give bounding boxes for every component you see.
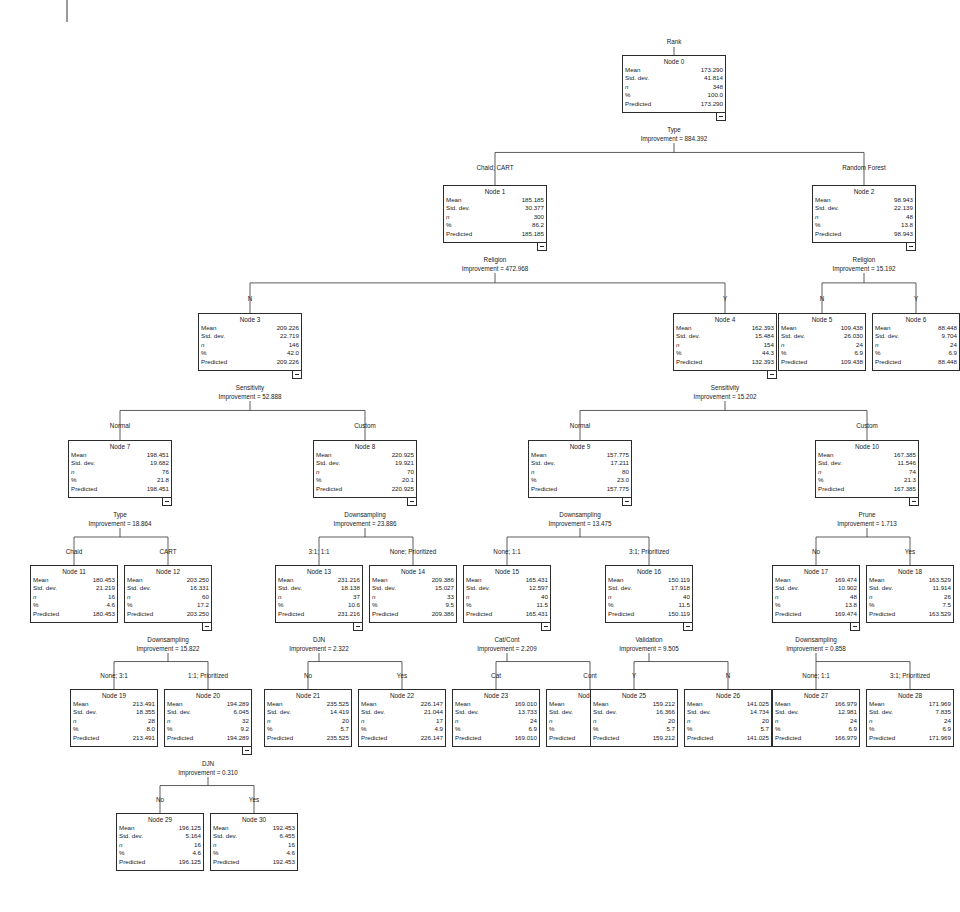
node-stat-value: 5.164 (186, 832, 201, 840)
node-stat-value: 20 (668, 717, 675, 725)
collapse-minus-icon[interactable] (541, 622, 551, 631)
node-stat-row: %6.9 (875, 349, 957, 357)
collapse-minus-icon[interactable] (202, 622, 212, 631)
tree-node[interactable]: Node 30Mean192.453Std. dev.6.455n16%4.6P… (210, 813, 298, 871)
node-stat-row: Std. dev.41.814 (625, 74, 723, 82)
collapse-minus-icon[interactable] (683, 622, 693, 631)
node-stat-value: 24 (944, 717, 951, 725)
node-stat-row: Std. dev.14.734 (687, 708, 769, 716)
collapse-minus-icon[interactable] (622, 497, 632, 506)
node-stat-value: 21.044 (424, 708, 443, 716)
node-stat-value: 231.216 (338, 610, 360, 618)
node-stat-label: % (625, 91, 631, 99)
tree-node[interactable]: Node 28Mean171.969Std. dev.7.835n24%6.9P… (866, 689, 954, 747)
node-stat-row: n48 (775, 593, 857, 601)
tree-node[interactable]: Node 0Mean173.290Std. dev.41.814n348%100… (622, 55, 726, 113)
tree-node[interactable]: Node 6Mean88.448Std. dev.9.704n24%6.9Pre… (872, 313, 960, 371)
tree-node[interactable]: Node 3Mean209.226Std. dev.22.719n146%42.… (198, 313, 302, 371)
node-stat-label: Std. dev. (549, 708, 573, 716)
node-stat-row: Predicted163.529 (869, 610, 951, 618)
edge-label: 3:1; 1:1 (308, 548, 329, 556)
node-stat-value: 6.9 (528, 725, 537, 733)
collapse-minus-icon[interactable] (850, 622, 860, 631)
tree-node[interactable]: Node 23Mean169.010Std. dev.13.733n24%6.9… (452, 689, 540, 747)
node-stat-label: n (316, 468, 319, 476)
tree-node[interactable]: Node 12Mean203.250Std. dev.16.331n60%17.… (124, 565, 212, 623)
tree-node[interactable]: Node 11Mean180.453Std. dev.21.219n16%4.6… (30, 565, 118, 623)
node-stat-label: Std. dev. (775, 584, 799, 592)
tree-node[interactable]: Node 21Mean235.525Std. dev.14.419n20%5.7… (264, 689, 352, 747)
tree-node[interactable]: Node 8Mean220.925Std. dev.19.921n70%20.1… (313, 440, 417, 498)
node-stat-row: Mean196.125 (119, 824, 201, 832)
tree-node[interactable]: Node 13Mean231.216Std. dev.18.138n37%10.… (275, 565, 363, 623)
tree-node[interactable]: Node 4Mean162.393Std. dev.15.484n154%44.… (673, 313, 777, 371)
edge-label: Y (723, 295, 727, 303)
node-stat-row: Predicted209.386 (372, 610, 454, 618)
node-stat-row: Std. dev.6.045 (167, 708, 249, 716)
node-stat-value: 209.226 (277, 358, 299, 366)
collapse-minus-icon[interactable] (767, 370, 777, 379)
node-stat-value: 11.5 (536, 601, 548, 609)
tree-node[interactable]: Node 14Mean209.386Std. dev.15.027n33%9.5… (369, 565, 457, 623)
node-stat-label: Mean (127, 576, 142, 584)
collapse-minus-icon[interactable] (716, 112, 726, 121)
node-stat-row: %4.9 (361, 725, 443, 733)
collapse-minus-icon[interactable] (162, 497, 172, 506)
node-stat-row: Mean231.216 (278, 576, 360, 584)
node-title: Node 13 (278, 567, 360, 576)
collapse-minus-icon[interactable] (353, 622, 363, 631)
edge-label: N (820, 295, 825, 303)
collapse-minus-icon[interactable] (537, 242, 547, 251)
node-stat-label: % (676, 349, 682, 357)
tree-node[interactable]: Node 25Mean159.212Std. dev.16.366n20%5.7… (590, 689, 678, 747)
node-stat-label: Predicted (549, 734, 575, 742)
node-stat-label: Std. dev. (127, 584, 151, 592)
tree-node[interactable]: Node 16Mean150.119Std. dev.17.918n40%11.… (605, 565, 693, 623)
collapse-minus-icon[interactable] (909, 497, 919, 506)
tree-node[interactable]: Node 22Mean226.147Std. dev.21.044n17%4.9… (358, 689, 446, 747)
node-title: Node 23 (455, 691, 537, 700)
node-stat-label: Std. dev. (213, 832, 237, 840)
node-stat-label: % (213, 849, 219, 857)
node-stat-label: Mean (73, 700, 88, 708)
tree-node[interactable]: Node 26Mean141.025Std. dev.14.734n20%5.7… (684, 689, 772, 747)
tree-node[interactable]: Node 7Mean198.451Std. dev.19.682n76%21.8… (68, 440, 172, 498)
tree-node[interactable]: Node 20Mean194.289Std. dev.6.045n32%9.2P… (164, 689, 252, 747)
tree-node[interactable]: Node 19Mean213.491Std. dev.18.355n28%8.0… (70, 689, 158, 747)
collapse-minus-icon[interactable] (407, 497, 417, 506)
split-variable: DJN (202, 760, 214, 767)
split-label: DownsamplingImprovement = 23.886 (333, 511, 396, 528)
tree-node[interactable]: Node 17Mean169.474Std. dev.10.902n48%13.… (772, 565, 860, 623)
tree-node[interactable]: Node 2Mean98.943Std. dev.22.139n48%13.8P… (812, 185, 916, 243)
tree-node[interactable]: Node 10Mean167.385Std. dev.11.546n74%21.… (815, 440, 919, 498)
node-stat-label: n (775, 717, 778, 725)
node-stat-label: n (775, 593, 778, 601)
node-stat-row: Mean198.451 (71, 451, 169, 459)
split-variable: Sensitivity (236, 384, 264, 391)
node-stat-row: Std. dev.14.419 (267, 708, 349, 716)
node-stat-value: 80 (622, 468, 629, 476)
split-label: DownsamplingImprovement = 13.475 (548, 511, 611, 528)
node-stat-label: % (73, 725, 79, 733)
tree-node[interactable]: Node 9Mean157.775Std. dev.17.211n80%23.0… (528, 440, 632, 498)
tree-node[interactable]: Node 18Mean163.529Std. dev.11.914n26%7.5… (866, 565, 954, 623)
tree-node[interactable]: Node 29Mean196.125Std. dev.5.164n16%4.6P… (116, 813, 204, 871)
node-title: Node 6 (875, 315, 957, 324)
node-stat-value: 157.775 (607, 485, 629, 493)
node-stat-value: 20 (762, 717, 769, 725)
node-stat-row: n74 (818, 468, 916, 476)
split-label: TypeImprovement = 884.392 (641, 126, 708, 143)
node-stat-label: % (775, 601, 781, 609)
collapse-minus-icon[interactable] (292, 370, 302, 379)
tree-node[interactable]: Node 27Mean166.979Std. dev.12.981n24%6.9… (772, 689, 860, 747)
node-stat-value: 159.212 (653, 734, 675, 742)
node-stat-value: 98.943 (894, 230, 913, 238)
node-stat-label: Mean (869, 700, 884, 708)
tree-node[interactable]: Node 5Mean109.438Std. dev.26.030n24%6.9P… (778, 313, 866, 371)
tree-node[interactable]: Node 15Mean165.431Std. dev.12.597n40%11.… (463, 565, 551, 623)
node-stat-value: 33 (447, 593, 454, 601)
collapse-minus-icon[interactable] (906, 242, 916, 251)
tree-node[interactable]: Node 1Mean185.185Std. dev.30.377n300%86.… (443, 185, 547, 243)
collapse-minus-icon[interactable] (242, 746, 252, 755)
node-stat-label: n (73, 717, 76, 725)
